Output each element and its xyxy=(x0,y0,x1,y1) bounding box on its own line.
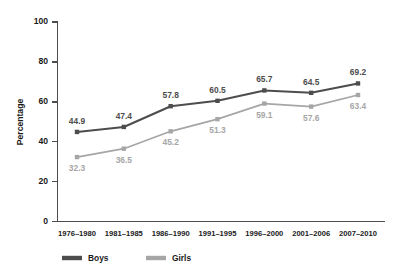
x-tick-label-0: 1976–1980 xyxy=(58,229,96,238)
chart-canvas: 020406080100 Percentage 1976–19801981–19… xyxy=(0,0,401,280)
y-tick-label-0: 0 xyxy=(43,216,48,226)
y-tick-label-40: 40 xyxy=(38,136,48,146)
data-label-girls-2: 45.2 xyxy=(163,137,180,147)
data-label-boys-5: 64.5 xyxy=(303,77,320,87)
line-chart: 020406080100 Percentage 1976–19801981–19… xyxy=(0,0,401,280)
x-tick-label-3: 1991–1995 xyxy=(198,229,237,238)
y-tick-label-100: 100 xyxy=(34,16,49,26)
data-point-girls-6 xyxy=(356,93,360,97)
y-axis-tick-labels: 020406080100 xyxy=(34,16,49,226)
data-point-girls-0 xyxy=(75,155,79,159)
data-point-boys-0 xyxy=(75,130,79,134)
data-label-girls-5: 57.6 xyxy=(303,113,320,123)
chart-legend: BoysGirls xyxy=(62,253,191,263)
data-label-girls-6: 63.4 xyxy=(350,101,367,111)
data-point-boys-2 xyxy=(168,104,172,108)
data-label-boys-3: 60.5 xyxy=(209,85,226,95)
x-tick-label-4: 1996–2000 xyxy=(245,229,283,238)
legend-label-girls: Girls xyxy=(172,253,191,263)
data-point-boys-5 xyxy=(309,91,313,95)
x-tick-label-6: 2007–2010 xyxy=(339,229,377,238)
y-axis-title: Percentage xyxy=(15,99,25,146)
x-tick-label-5: 2001–2006 xyxy=(292,229,330,238)
data-label-girls-4: 59.1 xyxy=(256,110,273,120)
x-tick-label-1: 1981–1985 xyxy=(105,229,144,238)
data-point-boys-4 xyxy=(262,88,266,92)
legend-swatch-girls xyxy=(146,256,166,260)
y-tick-label-60: 60 xyxy=(38,96,48,106)
data-point-girls-2 xyxy=(168,129,172,133)
data-point-boys-6 xyxy=(356,81,360,85)
legend-label-boys: Boys xyxy=(88,253,109,263)
data-point-girls-5 xyxy=(309,104,313,108)
data-point-girls-4 xyxy=(262,101,266,105)
y-tick-label-80: 80 xyxy=(38,56,48,66)
data-point-boys-3 xyxy=(215,99,219,103)
x-axis-tick-labels: 1976–19801981–19851986–19901991–19951996… xyxy=(58,229,377,238)
data-label-girls-0: 32.3 xyxy=(69,163,86,173)
x-tick-label-2: 1986–1990 xyxy=(152,229,190,238)
y-tick-label-20: 20 xyxy=(38,176,48,186)
data-label-girls-3: 51.3 xyxy=(209,125,226,135)
data-label-boys-0: 44.9 xyxy=(69,116,86,126)
data-label-boys-1: 47.4 xyxy=(116,111,133,121)
data-label-girls-1: 36.5 xyxy=(116,155,133,165)
data-point-girls-3 xyxy=(215,117,219,121)
y-axis-ticks xyxy=(52,22,58,222)
legend-swatch-boys xyxy=(62,256,82,260)
data-label-boys-2: 57.8 xyxy=(163,90,180,100)
data-point-girls-1 xyxy=(122,146,126,150)
data-label-boys-4: 65.7 xyxy=(256,74,273,84)
data-point-boys-1 xyxy=(122,125,126,129)
data-label-boys-6: 69.2 xyxy=(350,67,367,77)
